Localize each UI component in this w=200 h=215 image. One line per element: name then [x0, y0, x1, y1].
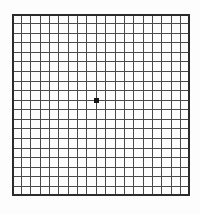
center-fixation-dot: [94, 98, 99, 103]
amsler-grid-svg: [12, 14, 190, 196]
grid-background: [12, 14, 190, 196]
amsler-grid: [12, 14, 190, 196]
page-background: [0, 0, 200, 215]
